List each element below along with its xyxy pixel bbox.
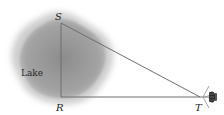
- surveyor-transit-icon: [200, 86, 217, 108]
- lake-survey-diagram: Lake S R T: [0, 0, 224, 115]
- point-label-R: R: [55, 102, 64, 113]
- lake: Lake: [12, 12, 113, 104]
- point-label-S: S: [55, 11, 62, 22]
- lake-label: Lake: [21, 68, 43, 78]
- point-label-T: T: [195, 102, 203, 113]
